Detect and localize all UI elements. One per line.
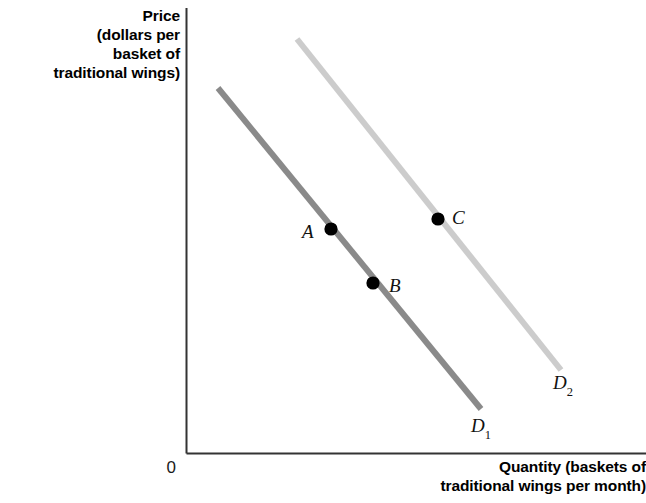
demand-curve-d1: [218, 88, 481, 409]
point-label-b: B: [389, 275, 401, 297]
data-point-c: [431, 212, 444, 225]
curve-label-d2-base: D: [553, 372, 567, 393]
curve-label-d2-subscript: 2: [567, 385, 573, 399]
data-point-a: [324, 222, 337, 235]
origin-label: 0: [152, 458, 176, 478]
curve-label-d1-base: D: [471, 415, 485, 436]
point-label-a: A: [302, 221, 314, 243]
demand-curve-d2: [297, 39, 561, 370]
curve-label-d2: D2: [553, 372, 573, 398]
y-axis-title: Price (dollars per basket of traditional…: [0, 6, 180, 82]
point-label-c: C: [452, 207, 465, 229]
x-axis-title: Quantity (baskets of traditional wings p…: [346, 457, 646, 495]
curve-label-d1-subscript: 1: [485, 428, 491, 442]
demand-curve-figure: Price (dollars per basket of traditional…: [0, 0, 646, 503]
curve-label-d1: D1: [471, 415, 491, 441]
data-point-b: [366, 276, 379, 289]
